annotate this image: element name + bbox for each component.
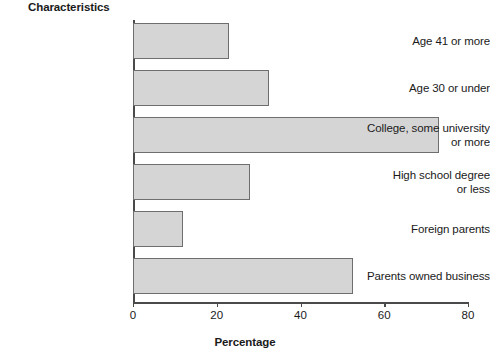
bar xyxy=(133,70,269,106)
bar-chart: Characteristics Age 41 or moreAge 30 or … xyxy=(0,0,490,356)
y-axis-title: Characteristics xyxy=(28,1,110,13)
category-label-line: High school degree xyxy=(362,168,490,182)
category-label: Foreign parents xyxy=(362,222,490,236)
category-label-line: or less xyxy=(362,182,490,196)
x-axis-tick xyxy=(301,302,302,307)
category-label-line: Parents owned business xyxy=(362,269,490,283)
category-label-line: Foreign parents xyxy=(362,222,490,236)
bar xyxy=(133,211,183,247)
category-label: Parents owned business xyxy=(362,269,490,283)
category-label-line: Age 41 or more xyxy=(362,34,490,48)
bar xyxy=(133,23,229,59)
category-label-line: or more xyxy=(362,135,490,149)
x-axis-tick-label: 20 xyxy=(210,309,223,321)
category-label-line: College, some university xyxy=(362,121,490,135)
x-axis-tick-label: 80 xyxy=(462,309,475,321)
bar xyxy=(133,164,250,200)
x-axis-tick-label: 0 xyxy=(130,309,136,321)
x-axis-tick xyxy=(133,302,134,307)
category-label: Age 30 or under xyxy=(362,81,490,95)
x-axis-tick xyxy=(384,302,385,307)
x-axis-tick-label: 60 xyxy=(378,309,391,321)
category-label: Age 41 or more xyxy=(362,34,490,48)
bar xyxy=(133,258,353,294)
x-axis-tick xyxy=(468,302,469,307)
x-axis-tick-label: 40 xyxy=(294,309,307,321)
category-label: College, some universityor more xyxy=(362,121,490,149)
category-label-line: Age 30 or under xyxy=(362,81,490,95)
x-axis-title: Percentage xyxy=(0,336,490,348)
x-axis-tick xyxy=(217,302,218,307)
plot-area xyxy=(133,20,468,302)
category-label: High school degreeor less xyxy=(362,168,490,196)
